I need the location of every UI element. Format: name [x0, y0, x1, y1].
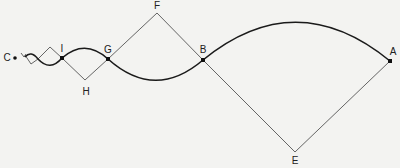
triangle-IHG: [62, 58, 108, 80]
label-E: E: [292, 155, 299, 166]
zigzag-lines: [21, 13, 390, 152]
triangle-BEA: [203, 60, 390, 152]
triangle-small-up: [38, 47, 62, 59]
label-F: F: [154, 0, 160, 11]
arc-BA: [203, 22, 390, 61]
labels: C I G H F B A E: [3, 0, 396, 166]
label-A: A: [390, 46, 397, 57]
point-A: [388, 59, 392, 63]
point-B: [201, 58, 205, 62]
point-G: [106, 57, 110, 61]
point-I: [60, 56, 64, 60]
label-H: H: [82, 86, 89, 97]
arc-IG: [62, 48, 108, 59]
arcs: [25, 22, 390, 80]
label-B: B: [200, 44, 207, 55]
point-C: [13, 56, 17, 60]
label-I: I: [61, 43, 64, 54]
arc-small-1: [38, 58, 62, 65]
triangle-GFB: [108, 13, 203, 60]
geometric-diagram: C I G H F B A E: [0, 0, 400, 168]
label-C: C: [3, 52, 10, 63]
points: [13, 56, 392, 63]
arc-GB: [108, 59, 203, 80]
label-G: G: [104, 44, 112, 55]
